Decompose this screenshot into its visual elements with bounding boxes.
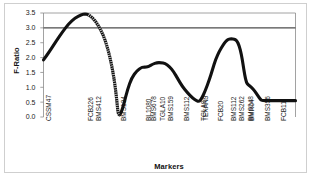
f-ratio-curve-dotted-segment — [89, 15, 120, 116]
chart-plot-area — [0, 0, 312, 179]
chart-figure: F-Ratio Markers 0.00.51.01.52.02.53.03.5… — [0, 0, 312, 179]
y-axis-tick-marks — [40, 13, 43, 117]
f-ratio-curve — [44, 14, 296, 115]
